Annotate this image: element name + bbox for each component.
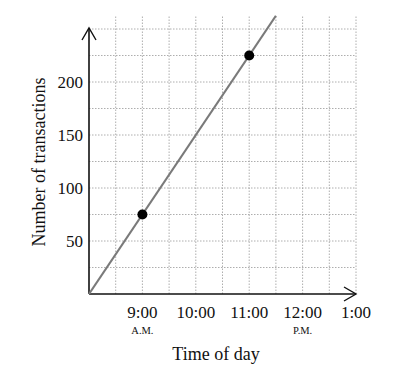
grid [89,16,356,294]
data-point [137,210,147,220]
y-tick-label: 150 [58,126,84,145]
x-tick-label: 10:00 [176,303,215,322]
x-tick-label: 9:00 [127,303,157,322]
x-tick-sublabel: P.M. [293,325,312,336]
axes [82,28,356,301]
x-tick-label: 1:00 [341,303,371,322]
y-tick-label: 200 [58,73,84,92]
x-tick-label: 11:00 [230,303,268,322]
data-point [244,51,254,61]
y-axis-label: Number of transactions [29,78,49,247]
y-tick-label: 100 [58,179,84,198]
y-tick-labels: 50100150200 [58,73,84,251]
x-axis-label: Time of day [172,344,259,364]
x-tick-sublabel: A.M. [131,325,153,336]
x-tick-label: 12:00 [283,303,322,322]
chart: 50100150200 9:00A.M.10:0011:0012:00P.M.1… [0,0,395,390]
x-tick-labels: 9:00A.M.10:0011:0012:00P.M.1:00 [127,303,371,336]
y-tick-label: 50 [66,232,83,251]
